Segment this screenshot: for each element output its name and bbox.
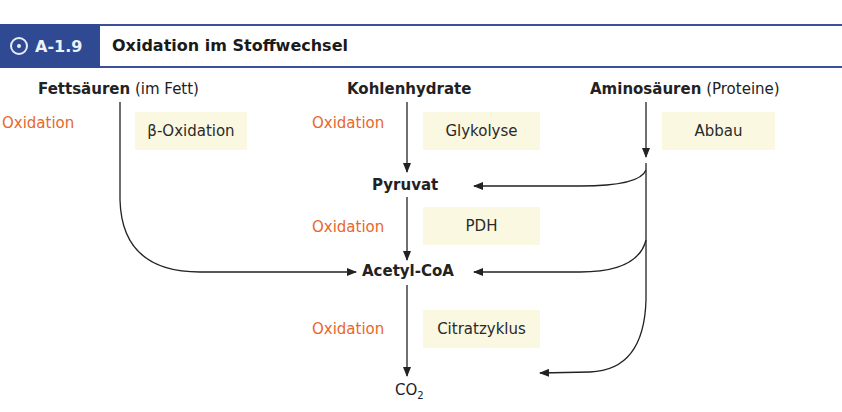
process-pdh: PDH: [423, 207, 540, 245]
co2-subscript: 2: [417, 390, 423, 401]
process-breakdown: Abbau: [662, 112, 775, 150]
oxidation-label-pdh: Oxidation: [312, 218, 384, 236]
amino-acids-label: Aminosäuren: [590, 80, 701, 98]
source-amino-acids: Aminosäuren (Proteine): [590, 80, 780, 98]
amino-acids-note: (Proteine): [706, 80, 780, 98]
process-citric-cycle: Citratzyklus: [423, 310, 540, 348]
intermediate-acetyl-coa: Acetyl-CoA: [362, 262, 454, 280]
co2-base: CO: [395, 381, 417, 399]
oxidation-label-citric: Oxidation: [312, 320, 384, 338]
process-glycolysis: Glykolyse: [423, 112, 540, 150]
product-co2: CO2: [395, 381, 424, 401]
pathway-arrows: [0, 0, 842, 412]
fatty-acids-note: (im Fett): [135, 80, 199, 98]
oxidation-label-fat: Oxidation: [2, 114, 74, 132]
fatty-acids-label: Fettsäuren: [38, 80, 130, 98]
source-carbohydrates: Kohlenhydrate: [347, 80, 471, 98]
oxidation-label-glycolysis: Oxidation: [312, 114, 384, 132]
source-fatty-acids: Fettsäuren (im Fett): [38, 80, 199, 98]
process-beta-oxidation: β-Oxidation: [135, 112, 247, 150]
intermediate-pyruvate: Pyruvat: [372, 176, 438, 194]
